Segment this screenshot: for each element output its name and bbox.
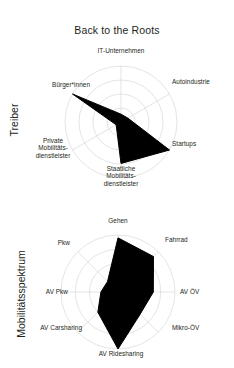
radar-label-staatliche-mobilitaetsdienstleister: Staatliche Mobilitäts- dienstleister <box>83 165 159 187</box>
radar-label-private-mobilitaetsdienstleister: Private Mobilitäts- dienstleister <box>16 137 90 159</box>
radar-chart-treiber <box>0 0 234 190</box>
radar-label-pkw: Pkw <box>24 239 70 246</box>
figure-root: Back to the Roots Treiber IT-Unternehmen… <box>0 0 234 368</box>
radar-label-fahrrad: Fahrrad <box>165 236 225 243</box>
radar-label-it-unternehmen: IT-Unternehmen <box>71 47 171 54</box>
radar-label-av-carsharing: AV Carsharing <box>4 324 82 331</box>
radar-label-autoindustrie: Autoindustrie <box>172 78 232 85</box>
radar-label-mikro-oev: Mikro-ÖV <box>172 324 228 331</box>
radar-label-av-oev: AV ÖV <box>180 288 230 295</box>
radar-label-gehen: Gehen <box>88 217 148 224</box>
radar-label-av-pkw: AV Pkw <box>12 288 68 295</box>
radar-label-startups: Startups <box>172 140 228 147</box>
radar-label-av-ridesharing: AV Ridesharing <box>78 350 164 357</box>
radar-label-buerger-innen: Bürger*innen <box>4 81 90 88</box>
